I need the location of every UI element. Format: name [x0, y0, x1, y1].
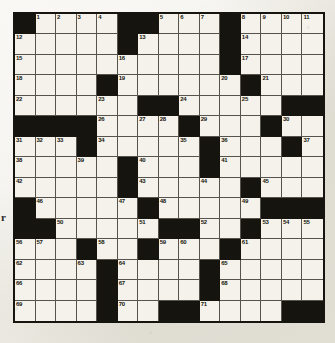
- grid-cell[interactable]: [179, 260, 200, 280]
- grid-cell[interactable]: [261, 55, 282, 75]
- grid-cell[interactable]: [36, 260, 57, 280]
- grid-cell[interactable]: [118, 116, 139, 136]
- crossword-grid[interactable]: 1234567891011121314151617181920212223242…: [13, 12, 325, 323]
- grid-cell[interactable]: [179, 198, 200, 218]
- grid-cell[interactable]: 24: [179, 96, 200, 116]
- grid-cell[interactable]: [302, 178, 323, 198]
- grid-cell[interactable]: 52: [200, 219, 221, 239]
- grid-cell[interactable]: 53: [261, 219, 282, 239]
- grid-cell[interactable]: 11: [302, 14, 323, 34]
- grid-cell[interactable]: [97, 34, 118, 54]
- grid-cell[interactable]: 21: [261, 75, 282, 95]
- grid-cell[interactable]: [241, 280, 262, 300]
- grid-cell[interactable]: [159, 260, 180, 280]
- grid-cell[interactable]: [159, 280, 180, 300]
- grid-cell[interactable]: [282, 55, 303, 75]
- grid-cell[interactable]: [36, 75, 57, 95]
- grid-cell[interactable]: [261, 239, 282, 259]
- grid-cell[interactable]: [200, 55, 221, 75]
- grid-cell[interactable]: 8: [241, 14, 262, 34]
- grid-cell[interactable]: [282, 239, 303, 259]
- grid-cell[interactable]: [138, 301, 159, 321]
- grid-cell[interactable]: 22: [15, 96, 36, 116]
- grid-cell[interactable]: [159, 157, 180, 177]
- grid-cell[interactable]: 18: [15, 75, 36, 95]
- grid-cell[interactable]: 9: [261, 14, 282, 34]
- grid-cell[interactable]: [220, 198, 241, 218]
- grid-cell[interactable]: [36, 178, 57, 198]
- grid-cell[interactable]: 34: [97, 137, 118, 157]
- grid-cell[interactable]: [56, 157, 77, 177]
- grid-cell[interactable]: 49: [241, 198, 262, 218]
- grid-cell[interactable]: [36, 301, 57, 321]
- grid-cell[interactable]: [56, 198, 77, 218]
- grid-cell[interactable]: 16: [118, 55, 139, 75]
- grid-cell[interactable]: [36, 280, 57, 300]
- grid-cell[interactable]: [200, 198, 221, 218]
- grid-cell[interactable]: 65: [220, 260, 241, 280]
- grid-cell[interactable]: [302, 55, 323, 75]
- grid-cell[interactable]: [36, 34, 57, 54]
- grid-cell[interactable]: [56, 301, 77, 321]
- grid-cell[interactable]: 44: [200, 178, 221, 198]
- grid-cell[interactable]: [282, 280, 303, 300]
- grid-cell[interactable]: [241, 260, 262, 280]
- grid-cell[interactable]: [77, 219, 98, 239]
- grid-cell[interactable]: 23: [97, 96, 118, 116]
- grid-cell[interactable]: 63: [77, 260, 98, 280]
- grid-cell[interactable]: [220, 116, 241, 136]
- grid-cell[interactable]: [56, 178, 77, 198]
- grid-cell[interactable]: 41: [220, 157, 241, 177]
- grid-cell[interactable]: [302, 34, 323, 54]
- grid-cell[interactable]: 12: [15, 34, 36, 54]
- grid-cell[interactable]: [179, 34, 200, 54]
- grid-cell[interactable]: [77, 75, 98, 95]
- grid-cell[interactable]: [56, 34, 77, 54]
- grid-cell[interactable]: 66: [15, 280, 36, 300]
- grid-cell[interactable]: 38: [15, 157, 36, 177]
- grid-cell[interactable]: [77, 178, 98, 198]
- grid-cell[interactable]: [282, 157, 303, 177]
- grid-cell[interactable]: [302, 239, 323, 259]
- grid-cell[interactable]: 71: [200, 301, 221, 321]
- grid-cell[interactable]: 17: [241, 55, 262, 75]
- grid-cell[interactable]: [118, 96, 139, 116]
- grid-cell[interactable]: [138, 280, 159, 300]
- grid-cell[interactable]: 43: [138, 178, 159, 198]
- grid-cell[interactable]: [138, 55, 159, 75]
- grid-cell[interactable]: [200, 239, 221, 259]
- grid-cell[interactable]: 60: [179, 239, 200, 259]
- grid-cell[interactable]: [261, 96, 282, 116]
- grid-cell[interactable]: [179, 55, 200, 75]
- grid-cell[interactable]: [179, 157, 200, 177]
- grid-cell[interactable]: [282, 178, 303, 198]
- grid-cell[interactable]: [118, 219, 139, 239]
- grid-cell[interactable]: 54: [282, 219, 303, 239]
- grid-cell[interactable]: [138, 75, 159, 95]
- grid-cell[interactable]: 20: [220, 75, 241, 95]
- grid-cell[interactable]: 13: [138, 34, 159, 54]
- grid-cell[interactable]: 48: [159, 198, 180, 218]
- grid-cell[interactable]: [159, 178, 180, 198]
- grid-cell[interactable]: [220, 178, 241, 198]
- grid-cell[interactable]: [138, 137, 159, 157]
- grid-cell[interactable]: [36, 55, 57, 75]
- grid-cell[interactable]: [282, 75, 303, 95]
- grid-cell[interactable]: 32: [36, 137, 57, 157]
- grid-cell[interactable]: [200, 96, 221, 116]
- grid-cell[interactable]: [200, 75, 221, 95]
- grid-cell[interactable]: 47: [118, 198, 139, 218]
- grid-cell[interactable]: 36: [220, 137, 241, 157]
- grid-cell[interactable]: 5: [159, 14, 180, 34]
- grid-cell[interactable]: [302, 280, 323, 300]
- grid-cell[interactable]: 51: [138, 219, 159, 239]
- grid-cell[interactable]: 15: [15, 55, 36, 75]
- grid-cell[interactable]: [282, 260, 303, 280]
- grid-cell[interactable]: 28: [159, 116, 180, 136]
- grid-cell[interactable]: [261, 301, 282, 321]
- grid-cell[interactable]: [220, 219, 241, 239]
- grid-cell[interactable]: [159, 137, 180, 157]
- grid-cell[interactable]: [36, 157, 57, 177]
- grid-cell[interactable]: [302, 116, 323, 136]
- grid-cell[interactable]: [118, 137, 139, 157]
